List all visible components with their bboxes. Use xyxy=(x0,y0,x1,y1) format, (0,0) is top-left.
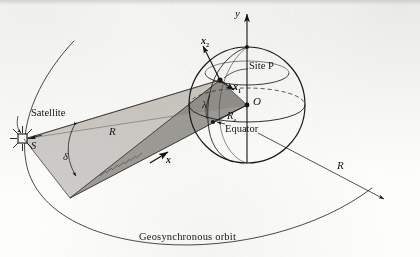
orbit-radius-label: R xyxy=(337,160,344,171)
declination-label: δ xyxy=(63,152,68,163)
figure-geosynchronous-orbit-diagram: y x2 x1 x Site P O Re Equator Satellite … xyxy=(0,0,420,257)
y-axis xyxy=(245,14,249,163)
range-vector-label: R xyxy=(109,126,116,137)
orbit-caption: Geosynchronous orbit xyxy=(139,232,236,243)
site-p-text: Site P xyxy=(249,60,274,71)
satellite-point-label: S xyxy=(31,141,36,152)
origin-label: O xyxy=(253,96,261,107)
orbit-radius-line xyxy=(258,133,384,199)
satellite-label: Satellite xyxy=(31,108,65,119)
x1-vector-label: x1 xyxy=(233,82,241,94)
equator-label: Equator xyxy=(225,124,258,135)
site-p-label: Site P xyxy=(249,61,274,72)
latitude-label: λ xyxy=(202,100,207,111)
x-vector-label: x xyxy=(166,155,171,165)
x2-vector-subscript: 2 xyxy=(206,41,209,48)
earth-radius-label: Re xyxy=(227,111,236,124)
x1-vector-subscript: 1 xyxy=(238,87,241,94)
diagram-canvas xyxy=(0,0,420,257)
x2-vector-label: x2 xyxy=(201,36,209,48)
y-axis-label: y xyxy=(235,8,240,19)
